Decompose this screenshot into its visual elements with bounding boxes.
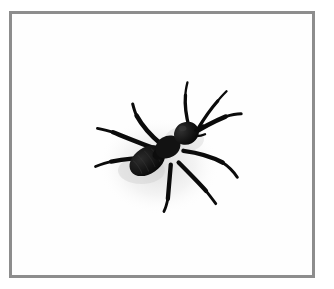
ant-leg-front-left-tarsus [133, 104, 137, 116]
ant-antenna-left-tip [185, 82, 187, 95]
ant-antenna-right-tip [218, 91, 227, 101]
ant-leg-mid-right-tarsus [223, 163, 238, 178]
image-canvas: ant [0, 0, 334, 289]
ant-antennae [185, 82, 226, 128]
ant-leg-front-right-tarsus [226, 114, 242, 117]
ant-illustration [12, 14, 312, 275]
ant-leg-hind-right-tarsus [206, 191, 216, 204]
photo-border [9, 11, 315, 278]
ant-leg-mid-left-tarsus [97, 128, 113, 132]
ant-leg-lower-center [168, 165, 171, 199]
photo-background [12, 14, 312, 275]
